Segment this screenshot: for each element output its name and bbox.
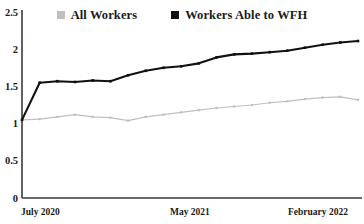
data-point-marker <box>109 117 111 119</box>
data-point-marker <box>74 114 76 116</box>
axis-lines <box>22 10 362 198</box>
data-point-marker <box>304 98 306 100</box>
data-point-marker <box>198 62 201 65</box>
plot-area <box>0 0 364 224</box>
series-workers-able-to-wfh <box>21 40 360 121</box>
data-point-marker <box>357 99 359 101</box>
data-point-marker <box>91 79 94 82</box>
data-point-marker <box>215 56 218 59</box>
data-point-marker <box>180 65 183 68</box>
data-point-marker <box>215 107 217 109</box>
data-point-marker <box>322 96 324 98</box>
data-point-marker <box>74 81 77 84</box>
chart-container: All Workers Workers Able to WFH 2.5 2 1.… <box>0 0 364 224</box>
data-point-marker <box>38 81 41 84</box>
data-point-marker <box>251 52 254 55</box>
data-point-marker <box>339 96 341 98</box>
data-point-marker <box>251 104 253 106</box>
data-point-marker <box>144 69 147 72</box>
data-point-marker <box>127 74 130 77</box>
data-point-marker <box>56 80 59 83</box>
data-point-marker <box>56 116 58 118</box>
data-point-marker <box>357 40 360 43</box>
data-point-marker <box>286 100 288 102</box>
data-point-marker <box>39 118 41 120</box>
data-series-layer <box>21 40 360 122</box>
data-point-marker <box>286 49 289 52</box>
series-all-workers <box>21 96 359 122</box>
data-point-marker <box>21 119 24 122</box>
data-point-marker <box>162 67 165 70</box>
data-point-marker <box>127 120 129 122</box>
data-point-marker <box>109 80 112 83</box>
data-point-marker <box>198 109 200 111</box>
data-point-marker <box>268 102 270 104</box>
data-point-marker <box>233 105 235 107</box>
series-line <box>22 97 358 121</box>
data-point-marker <box>92 116 94 118</box>
data-point-marker <box>162 114 164 116</box>
data-point-marker <box>233 53 236 56</box>
data-point-marker <box>180 111 182 113</box>
data-point-marker <box>145 116 147 118</box>
series-line <box>22 41 358 120</box>
data-point-marker <box>321 43 324 46</box>
data-point-marker <box>304 46 307 49</box>
data-point-marker <box>339 41 342 44</box>
data-point-marker <box>268 51 271 54</box>
